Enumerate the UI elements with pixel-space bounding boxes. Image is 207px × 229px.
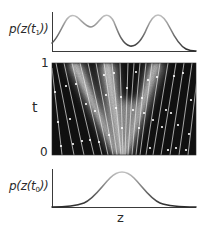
t-axis-label: t [32,100,38,114]
flow-heatmap [52,63,198,155]
bottom-y-axis-label: p(z(t0)) [9,180,48,194]
bottom-ylabel-prefix: p(z(t [9,179,36,193]
t-tick-bottom: 0 [40,146,48,158]
top-ylabel-prefix: p(z(t [9,22,36,36]
z-axis-label: z [117,211,124,224]
top-density-curve [52,15,196,51]
bottom-density-plot [52,169,196,208]
top-ylabel-suffix: )) [40,22,49,36]
t-tick-top: 1 [41,57,49,69]
bottom-ylabel-suffix: )) [40,179,49,193]
bottom-density-curve [52,172,196,207]
top-y-axis-label: p(z(t1)) [9,23,48,37]
top-density-plot [52,12,196,52]
